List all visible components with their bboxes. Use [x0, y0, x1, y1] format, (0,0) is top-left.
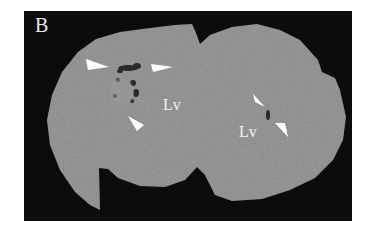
brain-section-image [0, 0, 369, 225]
label-left-ventricle: Lv [163, 96, 181, 114]
panel-label: B [35, 14, 48, 37]
lesion-region [110, 78, 134, 106]
label-right-ventricle: Lv [239, 123, 257, 141]
brain-section-figure: B Lv Lv [0, 0, 369, 225]
